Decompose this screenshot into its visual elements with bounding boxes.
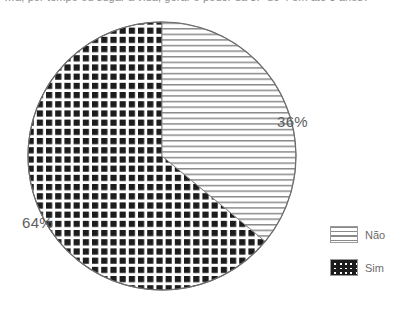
legend-label-nao: Não: [365, 229, 385, 241]
legend-swatch-horizontal-lines-icon: [330, 226, 358, 243]
pie-label-sim: 64%: [22, 214, 53, 231]
legend-item-nao[interactable]: Não: [330, 226, 400, 243]
legend-swatch-checkerboard-icon: [330, 259, 358, 276]
pie-label-nao: 36%: [277, 113, 308, 130]
legend-item-sim[interactable]: Sim: [330, 259, 400, 276]
legend-label-sim: Sim: [365, 262, 384, 274]
chart-legend: Não Sim: [330, 226, 400, 292]
chart-page: …a, por tempo ou sugar a vida, gerar o p…: [0, 0, 403, 312]
